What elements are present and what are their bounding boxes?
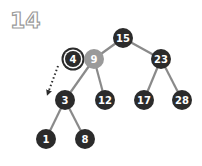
tree-node-28: 28 — [172, 90, 192, 110]
move-arrow — [48, 66, 58, 93]
node-label: 17 — [137, 95, 151, 106]
tree-node-4: 4 — [62, 48, 85, 71]
tree-node-15: 15 — [113, 28, 133, 48]
tree-node-1: 1 — [36, 129, 56, 149]
tree-diagram: 14 154923312172818 — [0, 0, 202, 166]
tree-node-3: 3 — [55, 90, 75, 110]
tree-node-17: 17 — [134, 90, 154, 110]
node-label: 8 — [82, 134, 89, 145]
node-label: 9 — [91, 54, 98, 65]
node-label: 23 — [154, 54, 168, 65]
binary-search-tree: 154923312172818 — [0, 0, 202, 166]
node-label: 28 — [175, 95, 189, 106]
node-label: 4 — [70, 54, 77, 65]
dotted-arrow-icon — [48, 66, 58, 93]
node-label: 15 — [116, 33, 130, 44]
node-label: 1 — [43, 134, 50, 145]
node-label: 12 — [98, 95, 112, 106]
tree-node-12: 12 — [95, 90, 115, 110]
node-label: 3 — [62, 95, 69, 106]
tree-nodes: 154923312172818 — [36, 28, 192, 149]
tree-node-23: 23 — [151, 49, 171, 69]
tree-node-8: 8 — [75, 129, 95, 149]
tree-node-9: 9 — [84, 49, 104, 69]
